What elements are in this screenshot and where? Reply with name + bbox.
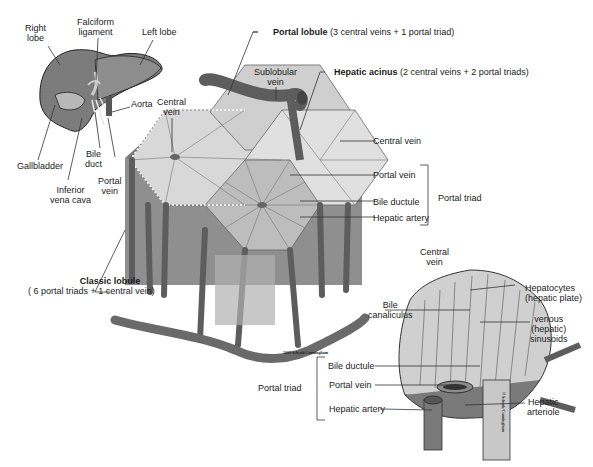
label-hepatocytes: Hepatocytes (hepatic plate) [525,283,582,303]
label-portal-triad-bracket: Portal triad [438,193,482,203]
label-portal-lobule: Portal lobule (3 central veins + 1 porta… [273,27,454,37]
copyright-text: 2009 Schenk/Cunningham [283,350,328,355]
label-bile-ductule: Bile ductule [373,197,420,207]
label-bile-canaliculus: Bile canaliculus [368,300,413,320]
label-portal-triad-micro: Portal triad [258,383,302,393]
label-gallbladder: Gallbladder [17,161,63,171]
label-inferior-vena-cava: Inferior vena cava [50,185,91,205]
label-bile-ductule-micro: Bile ductule [328,361,375,371]
label-falciform-ligament: Falciform ligament [77,17,114,37]
label-aorta: Aorta [131,99,153,109]
label-central-vein-right: Central vein [373,136,421,146]
label-classic-lobule-desc: ( 6 portal triads + 1 central vein) [28,286,155,296]
label-central-vein-micro: Central vein [420,247,449,267]
label-venous-sinusoids: venous (hepatic) sinusoids [530,314,568,344]
copyright-vertical: © Schenk/Cunningham [501,392,506,432]
label-sublobular-vein: Sublobular vein [254,67,297,87]
label-hepatic-artery: Hepatic artery [373,213,429,223]
label-left-lobe: Left lobe [142,27,177,37]
label-hepatic-acinus: Hepatic acinus (2 central veins + 2 port… [334,67,529,77]
label-hepatic-artery-micro: Hepatic artery [329,404,385,414]
label-hepatic-arteriole: Hepatic arteriole [527,397,560,417]
label-classic-lobule: Classic lobule [60,276,160,286]
label-portal-vein-micro: Portal vein [329,380,372,390]
label-central-vein-top: Central vein [157,97,186,117]
label-portal-vein-inset: Portal vein [98,176,122,196]
label-portal-vein: Portal vein [373,170,416,180]
lobule-block-illustration [115,65,388,358]
label-right-lobe: Right lobe [25,23,46,43]
label-bile-duct: Bile duct [85,149,102,169]
